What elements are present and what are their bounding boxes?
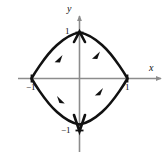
direction-arrow-lower-left — [57, 96, 65, 103]
tick-label-x-positive-one: 1 — [125, 83, 130, 92]
direction-arrow-upper-left — [55, 55, 63, 63]
tick-label-x-negative-one: −1 — [26, 83, 36, 92]
astroid-figure: x y 1 −1 1 −1 — [0, 0, 166, 155]
x-axis-label: x — [149, 63, 153, 73]
tick-label-y-positive-one: 1 — [65, 27, 70, 36]
y-axis-label: y — [67, 4, 71, 14]
plot-canvas — [0, 0, 166, 155]
direction-arrow-lower-right — [95, 88, 103, 96]
tick-label-y-negative-one: −1 — [61, 126, 71, 135]
direction-arrow-upper-right — [92, 52, 100, 60]
